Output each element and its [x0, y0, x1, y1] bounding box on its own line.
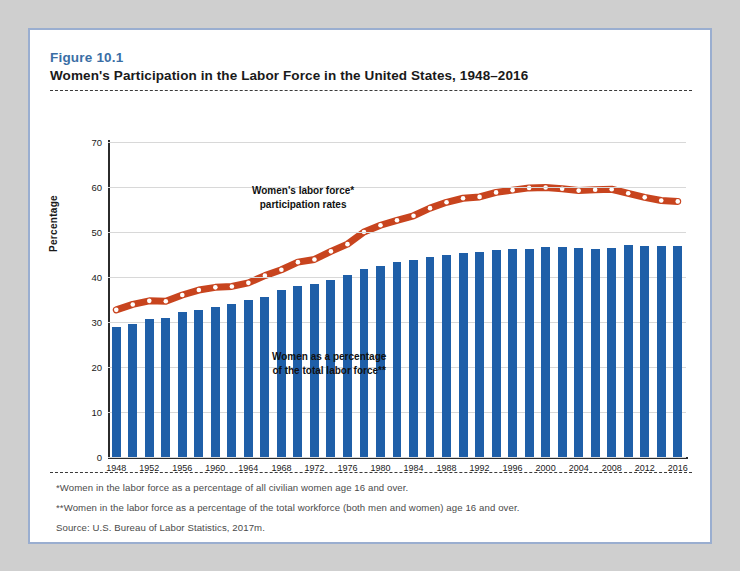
page-background: Figure 10.1 Women's Participation in the… — [0, 0, 740, 571]
bar — [475, 252, 484, 457]
bar — [244, 300, 253, 457]
line-marker — [246, 281, 251, 286]
bar — [145, 319, 154, 457]
line-marker — [329, 249, 334, 254]
line-marker — [626, 191, 631, 196]
bar — [112, 327, 121, 457]
annotation-line-text-2: participation rates — [260, 199, 347, 210]
line-marker — [510, 188, 515, 193]
bar — [640, 246, 649, 458]
line-marker — [378, 223, 383, 228]
line-marker — [675, 199, 680, 204]
bar — [393, 262, 402, 457]
divider-bottom — [50, 472, 692, 473]
bar — [508, 249, 517, 457]
bar — [525, 249, 534, 457]
line-marker — [213, 285, 218, 290]
y-axis-tick-label: 70 — [68, 137, 102, 148]
bar — [591, 249, 600, 457]
y-axis-tick-label: 0 — [68, 452, 102, 463]
bar — [227, 304, 236, 457]
y-axis-tick-label: 20 — [68, 362, 102, 373]
line-marker — [230, 284, 235, 289]
annotation-bar-series: Women as a percentage of the total labor… — [272, 350, 386, 377]
footnote-2: **Women in the labor force as a percenta… — [56, 502, 696, 513]
y-axis-title: Percentage — [48, 195, 59, 252]
y-axis-tick-label: 60 — [68, 182, 102, 193]
line-marker — [411, 214, 416, 219]
y-axis-tick-label: 50 — [68, 227, 102, 238]
line-marker — [444, 200, 449, 205]
bar — [607, 248, 616, 457]
line-marker — [296, 260, 301, 265]
line-marker — [593, 187, 598, 192]
figure-card: Figure 10.1 Women's Participation in the… — [28, 28, 712, 544]
gridline — [108, 187, 686, 188]
bar — [211, 307, 220, 457]
line-marker — [494, 190, 499, 195]
x-axis-ticks: 1948195219561960196419681972197619801984… — [108, 459, 686, 479]
line-marker — [180, 293, 185, 298]
line-marker — [345, 242, 350, 247]
bar — [459, 253, 468, 457]
bar — [409, 260, 418, 457]
source-note: Source: U.S. Bureau of Labor Statistics,… — [56, 522, 696, 533]
line-marker — [114, 308, 119, 313]
annotation-bar-text-1: Women as a percentage — [272, 351, 386, 362]
annotation-line-series: Women's labor force* participation rates — [252, 184, 354, 211]
gridline — [108, 457, 686, 458]
bar — [128, 324, 137, 457]
line-marker — [130, 302, 135, 307]
annotation-line-text-1: Women's labor force* — [252, 185, 354, 196]
bar — [574, 248, 583, 457]
bar — [558, 247, 567, 457]
bar — [161, 318, 170, 457]
footnote-1: *Women in the labor force as a percentag… — [56, 482, 696, 493]
chart-area: Percentage 010203040506070 1948195219561… — [50, 102, 694, 470]
bar — [541, 247, 550, 457]
bar — [492, 250, 501, 457]
line-marker — [164, 299, 169, 304]
line-marker — [477, 195, 482, 200]
figure-title: Women's Participation in the Labor Force… — [50, 68, 528, 83]
bar — [260, 297, 269, 457]
line-marker — [279, 268, 284, 273]
line-marker — [659, 198, 664, 203]
gridline — [108, 142, 686, 143]
line-marker — [395, 218, 400, 223]
line-marker — [642, 195, 647, 200]
line-marker — [461, 196, 466, 201]
y-axis-tick-label: 30 — [68, 317, 102, 328]
bar — [624, 245, 633, 457]
divider-top — [50, 90, 692, 91]
line-marker — [147, 299, 152, 304]
y-axis-tick-label: 10 — [68, 407, 102, 418]
line-marker — [312, 257, 317, 262]
annotation-bar-text-2: of the total labor force** — [272, 365, 385, 376]
bar — [178, 312, 187, 457]
figure-label: Figure 10.1 — [50, 50, 123, 65]
line-marker — [428, 206, 433, 211]
line-marker — [197, 288, 202, 293]
plot-canvas — [108, 142, 686, 457]
gridline — [108, 232, 686, 233]
bar — [442, 255, 451, 458]
line-marker — [576, 188, 581, 193]
footnotes: *Women in the labor force as a percentag… — [56, 482, 696, 542]
bar — [194, 310, 203, 457]
bar — [426, 257, 435, 457]
bar — [657, 246, 666, 457]
bar — [673, 246, 682, 457]
y-axis-tick-label: 40 — [68, 272, 102, 283]
y-axis-ticks: 010203040506070 — [62, 142, 102, 457]
